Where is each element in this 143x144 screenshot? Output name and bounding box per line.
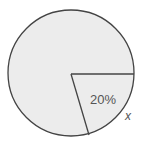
slice-name-label: x: [124, 109, 132, 123]
pie-chart: 20% x: [0, 0, 143, 144]
pie-circle: [8, 10, 134, 136]
slice-percent-label: 20%: [90, 92, 116, 107]
pie-chart-svg: 20% x: [0, 0, 143, 144]
